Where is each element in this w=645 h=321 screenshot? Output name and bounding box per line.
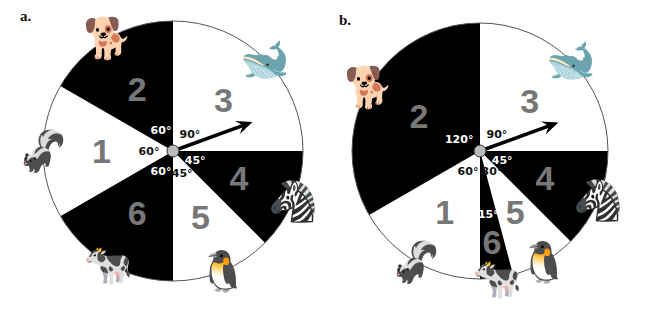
orca-icon: 🐋 [546, 37, 596, 83]
sector-number-5: 5 [191, 198, 210, 236]
sector-number-5: 5 [506, 193, 525, 231]
angle-label-2: 60° [151, 124, 172, 137]
sector-number-4: 4 [536, 159, 555, 197]
sector-number-2: 2 [128, 70, 147, 108]
spinner-diagram: 390°🐋445°🦓545°🐧660°🐄160°🦨260°🐕390°🐋445°🦓… [0, 0, 645, 321]
cow-icon: 🐄 [83, 241, 133, 287]
dalmatian-icon: 🐕 [83, 15, 133, 61]
sector-number-3: 3 [214, 81, 233, 119]
zebra-icon: 🦓 [268, 178, 318, 224]
angle-label-3: 90° [180, 128, 201, 141]
angle-label-1: 60° [139, 145, 160, 158]
angle-label-5: 45° [172, 167, 193, 180]
penguin-icon: 🐧 [519, 239, 569, 285]
angle-label-1: 60° [458, 165, 479, 178]
spinner-hub[interactable] [474, 145, 486, 157]
dalmatian-icon: 🐕 [344, 64, 394, 110]
spinner-b: 390°🐋445°🦓530°🐧615°🐄160°🦨2120°🐕 [344, 23, 623, 301]
sector-number-6: 6 [128, 194, 147, 232]
zebra-icon: 🦓 [573, 177, 623, 223]
angle-label-6: 60° [151, 165, 172, 178]
skunk-icon: 🦨 [391, 239, 441, 285]
sector-number-4: 4 [230, 159, 249, 197]
angle-label-5: 30° [482, 165, 503, 178]
angle-label-2: 120° [445, 133, 473, 146]
angle-label-3: 90° [487, 128, 508, 141]
penguin-icon: 🐧 [198, 248, 248, 294]
sector-number-2: 2 [410, 97, 429, 135]
cow-icon: 🐄 [472, 255, 522, 301]
spinner-hub[interactable] [167, 145, 179, 157]
angle-label-4: 45° [185, 154, 206, 167]
angle-label-6: 15° [478, 208, 499, 221]
skunk-icon: 🦨 [18, 128, 68, 174]
spinner-a: 390°🐋445°🦓545°🐧660°🐄160°🦨260°🐕 [18, 15, 318, 294]
sector-number-1: 1 [435, 193, 454, 231]
sector-number-3: 3 [520, 82, 539, 120]
orca-icon: 🐋 [240, 36, 290, 82]
sector-number-1: 1 [92, 132, 111, 170]
